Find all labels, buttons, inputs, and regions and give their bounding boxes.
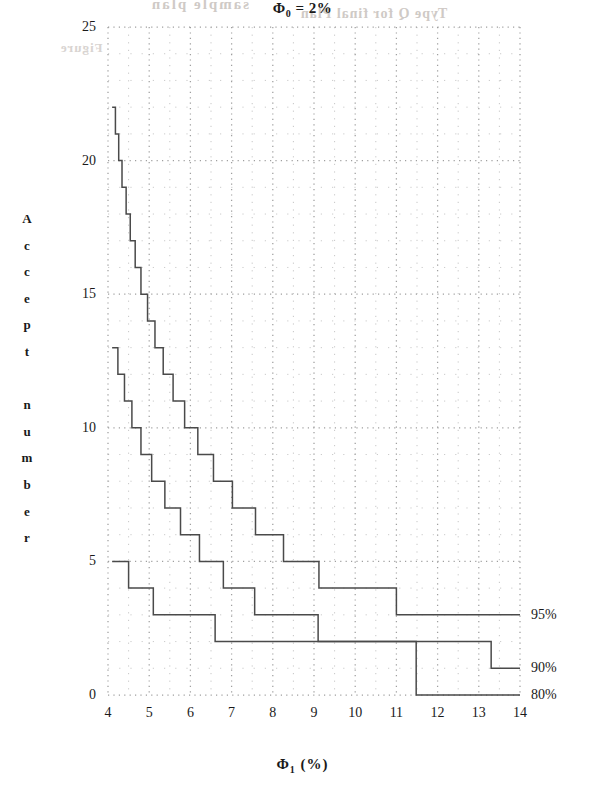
y-axis-tick-labels: 0510152025	[48, 0, 96, 809]
x-axis-title: Φ1 (%)	[0, 756, 605, 775]
series-curve-80	[112, 561, 520, 695]
y-axis-title-char-3: e	[14, 286, 40, 313]
plot-area	[108, 27, 520, 695]
x-tick-label-6: 6	[175, 706, 205, 720]
x-tick-label-8: 8	[258, 706, 288, 720]
series-curves	[108, 27, 520, 695]
y-axis-title-char-5: t	[14, 339, 40, 366]
x-axis-title-symbol: Φ	[276, 756, 289, 772]
y-axis-title-char-8: u	[14, 419, 40, 446]
chart-title-symbol: Φ	[273, 0, 286, 16]
series-curve-95	[112, 107, 520, 615]
y-tick-label-0: 0	[56, 688, 96, 702]
y-tick-label-15: 15	[56, 287, 96, 301]
x-tick-label-14: 14	[505, 706, 535, 720]
y-axis-title-char-0: A	[14, 206, 40, 233]
y-tick-label-25: 25	[56, 20, 96, 34]
chart-title-rest: = 2%	[291, 0, 332, 16]
x-tick-label-9: 9	[299, 706, 329, 720]
x-tick-label-7: 7	[217, 706, 247, 720]
y-axis-title-char-11: e	[14, 499, 40, 526]
y-tick-label-20: 20	[56, 154, 96, 168]
y-axis-title-char-12: r	[14, 525, 40, 552]
y-axis-title-char-9: m	[14, 445, 40, 472]
x-tick-label-13: 13	[464, 706, 494, 720]
y-axis-title-char-1: c	[14, 233, 40, 260]
y-axis-title-char-7: n	[14, 392, 40, 419]
x-tick-label-10: 10	[340, 706, 370, 720]
series-label-90: 90%	[531, 661, 557, 675]
x-tick-label-4: 4	[93, 706, 123, 720]
y-axis-title-char-10: b	[14, 472, 40, 499]
y-tick-label-10: 10	[56, 421, 96, 435]
y-axis-title-spacer	[14, 366, 40, 393]
y-axis-title-char-4: p	[14, 312, 40, 339]
x-tick-label-12: 12	[423, 706, 453, 720]
series-label-95: 95%	[531, 608, 557, 622]
y-tick-label-5: 5	[56, 554, 96, 568]
y-axis-title-char-2: c	[14, 259, 40, 286]
x-axis-title-rest: (%)	[296, 756, 329, 772]
series-label-80: 80%	[531, 688, 557, 702]
x-tick-label-5: 5	[134, 706, 164, 720]
y-axis-title: Accept number	[14, 206, 40, 552]
x-axis-tick-labels: 4567891011121314	[108, 706, 520, 726]
chart-figure: sample plan Type Q for final Plan Figure…	[0, 0, 605, 809]
x-tick-label-11: 11	[381, 706, 411, 720]
